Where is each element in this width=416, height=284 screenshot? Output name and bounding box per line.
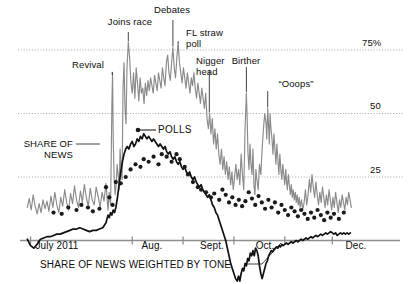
poll-point (325, 210, 329, 214)
caption-share-of-news-weighted: SHARE OF NEWS WEIGHTED BY TONE (40, 260, 231, 271)
poll-point (322, 218, 326, 222)
annotation-debates: Debates (154, 5, 190, 16)
poll-point (119, 181, 123, 185)
poll-point (332, 212, 336, 216)
legend-label-polls: POLLS (158, 125, 192, 136)
poll-point (104, 185, 108, 189)
poll-point (212, 191, 216, 195)
poll-point (91, 209, 95, 213)
poll-point (312, 216, 316, 220)
callout-share-of-news-line1: SHARE OF (5, 139, 73, 150)
poll-point (217, 198, 221, 202)
poll-point (178, 157, 182, 161)
poll-point (273, 200, 277, 204)
poll-point (129, 167, 133, 171)
poll-point (174, 152, 178, 156)
poll-point (110, 203, 114, 207)
poll-point (293, 209, 297, 213)
poll-point (138, 165, 142, 169)
poll-point (286, 213, 290, 217)
x-tick-label-sept: Sept. (200, 241, 224, 252)
poll-point (151, 155, 155, 159)
poll-point (342, 210, 346, 214)
poll-point (250, 196, 254, 200)
poll-point (283, 208, 287, 212)
poll-point (240, 204, 244, 208)
x-tick-label-july: July 2011 (36, 241, 79, 252)
poll-point (309, 210, 313, 214)
annotation-birther: Birther (232, 56, 261, 67)
poll-point (337, 217, 341, 221)
x-tick-label-dec: Dec. (346, 241, 367, 252)
legend-polls-marker (136, 128, 156, 133)
axis-label-50: 50 (370, 101, 381, 112)
poll-point (97, 207, 101, 211)
poll-point (266, 198, 270, 202)
poll-point (209, 195, 213, 199)
poll-point (74, 208, 78, 212)
legend-dot-polls (136, 128, 141, 133)
axis-label-75: 75% (362, 38, 381, 49)
poll-point (199, 188, 203, 192)
annotation-revival: Revival (72, 60, 104, 71)
annotation-joins-race: Joins race (108, 17, 152, 28)
poll-point (256, 194, 260, 198)
poll-point (86, 205, 90, 209)
annotation-niggerhead-line2: head (196, 67, 218, 78)
poll-point (133, 162, 137, 166)
callout-leader-lines (76, 144, 281, 264)
poll-point (279, 203, 283, 207)
poll-point (276, 210, 280, 214)
poll-point (107, 195, 111, 199)
poll-point (147, 160, 151, 164)
poll-point (296, 214, 300, 218)
poll-point (302, 212, 306, 216)
x-tick-label-oct: Oct. (256, 241, 275, 252)
poll-point (51, 210, 55, 214)
poll-point (114, 180, 118, 184)
poll-point (66, 205, 70, 209)
poll-point (319, 213, 323, 217)
poll-point (299, 208, 303, 212)
poll-point (260, 200, 264, 204)
poll-point (315, 208, 319, 212)
poll-point (289, 205, 293, 209)
poll-point (186, 172, 190, 176)
poll-point (79, 203, 83, 207)
poll-point (142, 157, 146, 161)
poll-point (204, 190, 208, 194)
annotation-oops: “Ooops” (278, 79, 313, 90)
poll-point (270, 205, 274, 209)
chart-container: 75% 50 25 Revival Joins race Debates FL … (0, 0, 416, 284)
poll-point (160, 152, 164, 156)
poll-point (247, 190, 251, 194)
poll-point (165, 155, 169, 159)
poll-point (253, 203, 257, 207)
poll-point (306, 217, 310, 221)
poll-point (191, 180, 195, 184)
x-tick-label-aug: Aug. (142, 241, 163, 252)
poll-point (220, 188, 224, 192)
poll-point (156, 162, 160, 166)
axis-label-25: 25 (370, 165, 381, 176)
poll-point (237, 198, 241, 202)
annotation-fl-straw-poll-line2: poll (186, 39, 201, 50)
poll-point (230, 195, 234, 199)
poll-point (224, 193, 228, 197)
poll-point (233, 203, 237, 207)
annotation-fl-straw-poll-line1: FL straw (186, 28, 223, 39)
poll-point (227, 200, 231, 204)
annotation-niggerhead-line1: Nigger (196, 56, 225, 67)
poll-point (329, 216, 333, 220)
poll-point (243, 199, 247, 203)
poll-point (196, 185, 200, 189)
poll-point (170, 160, 174, 164)
poll-point (183, 165, 187, 169)
poll-point (263, 207, 267, 211)
poll-point (124, 175, 128, 179)
poll-point (60, 212, 64, 216)
callout-share-of-news-line2: NEWS (5, 150, 73, 161)
